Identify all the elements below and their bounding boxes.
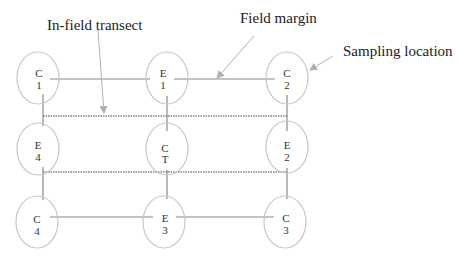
node-e2-number: 2 xyxy=(284,151,290,163)
field-margin-label: Field margin xyxy=(240,10,317,26)
node-c2-number: 2 xyxy=(284,79,290,91)
field-margin-arrow xyxy=(217,36,254,78)
sampling-location-label: Sampling location xyxy=(343,43,453,59)
node-c3-letter: C xyxy=(282,212,289,224)
node-e3-letter: E xyxy=(162,212,169,224)
in-field-transect-arrow xyxy=(98,30,104,113)
node-c1-number: 1 xyxy=(36,79,42,91)
node-c4-number: 4 xyxy=(34,225,40,237)
node-e2-letter: E xyxy=(284,139,291,151)
node-c3-number: 3 xyxy=(283,224,289,236)
sampling-location-arrow xyxy=(310,56,333,70)
node-e4-letter: E xyxy=(35,139,42,151)
node-e3-number: 3 xyxy=(162,224,168,236)
node-e1-number: 1 xyxy=(160,79,166,91)
node-c1-letter: C xyxy=(35,67,42,79)
in-field-transect-label: In-field transect xyxy=(47,17,143,33)
sampling-layout-diagram: C 1 E 1 C 2 E 4 C T E 2 C 4 E 3 C 3 In-f… xyxy=(0,0,463,262)
node-e1-letter: E xyxy=(160,67,167,79)
node-ct-letter2: T xyxy=(162,153,169,165)
node-e4-number: 4 xyxy=(35,151,41,163)
node-c2-letter: C xyxy=(283,67,290,79)
node-c4-letter: C xyxy=(33,213,40,225)
